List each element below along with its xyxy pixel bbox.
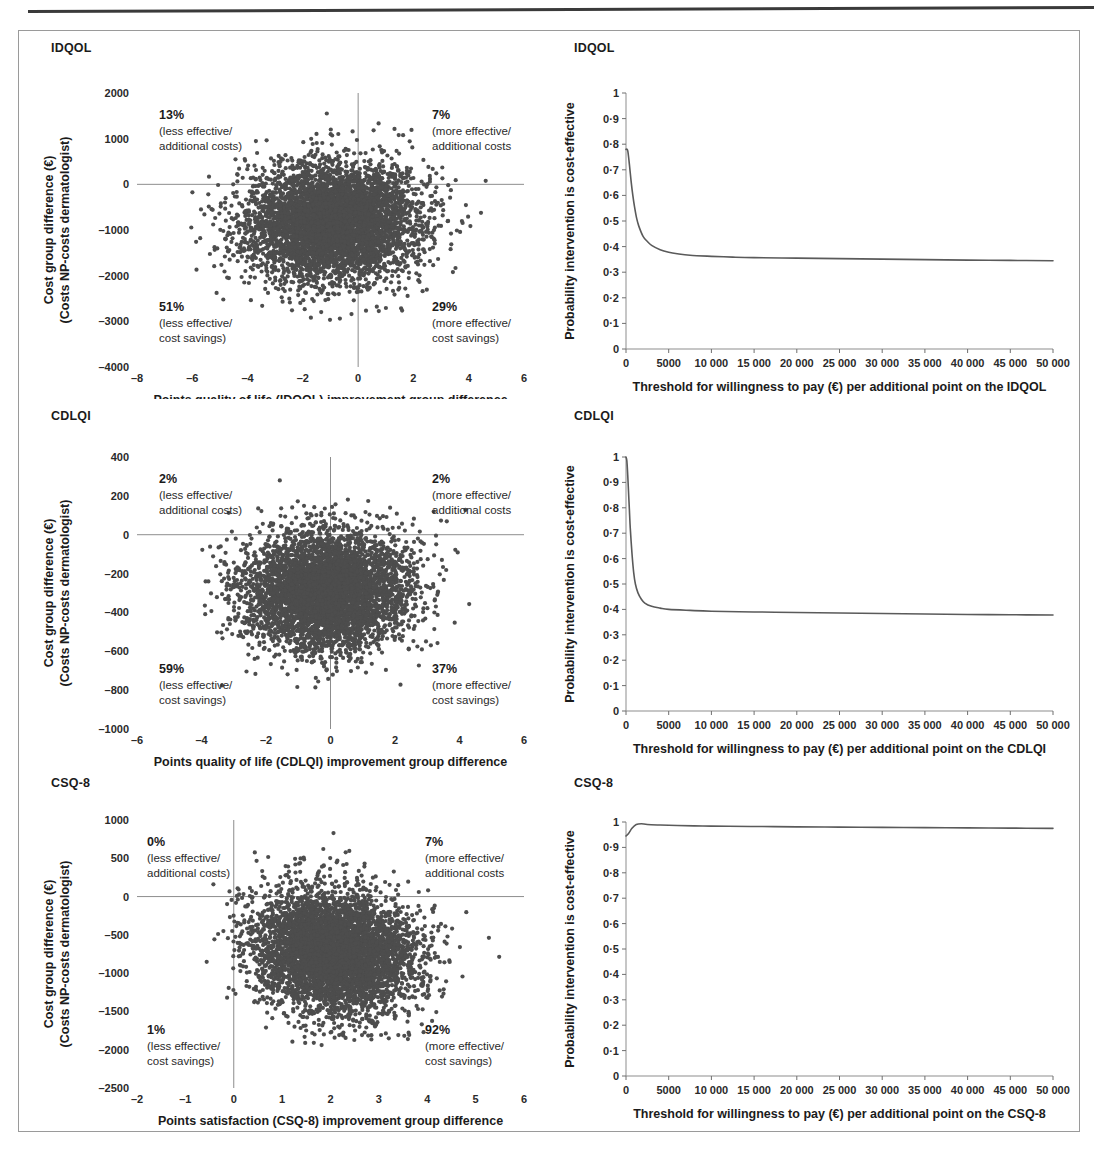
svg-text:0: 0 (123, 891, 129, 903)
svg-text:6: 6 (521, 1093, 527, 1105)
chart-cdlqi-plane: –6–4–202464002000–200–400–600–800–1000Po… (19, 399, 550, 770)
svg-text:6: 6 (521, 734, 527, 746)
svg-text:45 000: 45 000 (993, 357, 1027, 369)
svg-text:Threshold for willingness to p: Threshold for willingness to pay (€) per… (633, 1107, 1046, 1121)
svg-text:–4: –4 (241, 372, 254, 384)
svg-text:0·6: 0·6 (603, 189, 619, 201)
panel-title-csq8-plane: CSQ-8 (51, 776, 90, 790)
svg-text:additional costs: additional costs (425, 867, 505, 879)
svg-text:5000: 5000 (656, 719, 680, 731)
svg-text:10 000: 10 000 (695, 1084, 729, 1096)
svg-text:29%: 29% (432, 300, 457, 314)
svg-text:0·6: 0·6 (603, 918, 619, 930)
svg-text:15 000: 15 000 (737, 357, 771, 369)
svg-text:2: 2 (392, 734, 398, 746)
svg-text:0: 0 (355, 372, 361, 384)
svg-text:0·7: 0·7 (603, 527, 619, 539)
svg-text:–8: –8 (131, 372, 143, 384)
svg-text:40 000: 40 000 (951, 719, 985, 731)
svg-text:Points satisfaction (CSQ-8) im: Points satisfaction (CSQ-8) improvement … (158, 1114, 503, 1128)
svg-text:40 000: 40 000 (951, 1084, 985, 1096)
chart-idqol-ceac: 00·10·20·30·40·50·60·70·80·910500010 000… (550, 31, 1079, 399)
svg-text:2000: 2000 (105, 87, 129, 99)
svg-text:4: 4 (424, 1093, 431, 1105)
svg-text:2%: 2% (159, 472, 177, 486)
svg-text:0: 0 (327, 734, 333, 746)
svg-text:0·7: 0·7 (603, 892, 619, 904)
svg-text:0%: 0% (147, 835, 165, 849)
svg-text:–4: –4 (195, 734, 208, 746)
chart-csq8-plane: –2–1012345610005000–500–1000–1500–2000–2… (19, 770, 550, 1131)
svg-text:35 000: 35 000 (908, 357, 942, 369)
svg-text:30 000: 30 000 (865, 1084, 899, 1096)
svg-text:Cost group difference (€): Cost group difference (€) (42, 519, 56, 668)
svg-text:59%: 59% (159, 662, 184, 676)
svg-text:cost savings): cost savings) (159, 332, 226, 344)
svg-text:1000: 1000 (105, 133, 129, 145)
svg-text:(more effective/: (more effective/ (432, 679, 512, 691)
panel-idqol-ceac: IDQOL 00·10·20·30·40·50·60·70·80·9105000… (550, 31, 1079, 399)
svg-text:15 000: 15 000 (737, 719, 771, 731)
svg-text:25 000: 25 000 (823, 1084, 857, 1096)
svg-text:Threshold for willingness to p: Threshold for willingness to pay (€) per… (633, 742, 1046, 756)
svg-text:cost savings): cost savings) (432, 694, 499, 706)
svg-text:10 000: 10 000 (695, 357, 729, 369)
svg-text:6: 6 (521, 372, 527, 384)
svg-text:45 000: 45 000 (993, 719, 1027, 731)
svg-text:2: 2 (410, 372, 416, 384)
chart-csq8-ceac: 00·10·20·30·40·50·60·70·80·910500010 000… (550, 770, 1079, 1131)
svg-text:(Costs NP-costs dermatologist): (Costs NP-costs dermatologist) (58, 500, 72, 687)
svg-text:–1000: –1000 (98, 967, 129, 979)
svg-text:(Costs NP-costs dermatologist): (Costs NP-costs dermatologist) (58, 137, 72, 324)
svg-text:92%: 92% (425, 1023, 450, 1037)
svg-text:0: 0 (613, 705, 619, 717)
svg-text:–2000: –2000 (98, 270, 129, 282)
svg-text:additional costs): additional costs) (147, 867, 230, 879)
chart-cdlqi-ceac: 00·10·20·30·40·50·60·70·80·910500010 000… (550, 399, 1079, 770)
svg-text:500: 500 (111, 852, 129, 864)
svg-text:20 000: 20 000 (780, 719, 814, 731)
svg-text:–6: –6 (131, 734, 143, 746)
svg-text:–3000: –3000 (98, 315, 129, 327)
svg-text:35 000: 35 000 (908, 1084, 942, 1096)
svg-text:0·5: 0·5 (603, 215, 619, 227)
svg-text:0·8: 0·8 (603, 138, 619, 150)
panel-title-cdlqi-ceac: CDLQI (574, 409, 614, 423)
svg-text:(more effective/: (more effective/ (432, 125, 512, 137)
svg-text:0·1: 0·1 (603, 1045, 619, 1057)
svg-text:additional costs): additional costs) (159, 504, 242, 516)
svg-text:200: 200 (111, 490, 129, 502)
svg-text:1: 1 (279, 1093, 285, 1105)
svg-text:0·1: 0·1 (603, 680, 619, 692)
svg-text:400: 400 (111, 451, 129, 463)
svg-text:(less effective/: (less effective/ (147, 1040, 221, 1052)
svg-text:5: 5 (473, 1093, 479, 1105)
svg-text:40 000: 40 000 (951, 357, 985, 369)
svg-text:(more effective/: (more effective/ (425, 852, 505, 864)
svg-text:13%: 13% (159, 108, 184, 122)
svg-text:0: 0 (613, 1070, 619, 1082)
svg-text:3: 3 (376, 1093, 382, 1105)
svg-text:0·3: 0·3 (603, 994, 619, 1006)
svg-text:25 000: 25 000 (823, 719, 857, 731)
svg-text:(more effective/: (more effective/ (425, 1040, 505, 1052)
panel-title-cdlqi-plane: CDLQI (51, 409, 91, 423)
svg-text:0·9: 0·9 (603, 113, 619, 125)
svg-text:2: 2 (327, 1093, 333, 1105)
svg-text:0: 0 (231, 1093, 237, 1105)
svg-text:0·3: 0·3 (603, 629, 619, 641)
svg-text:–1000: –1000 (98, 723, 129, 735)
svg-text:0·2: 0·2 (603, 292, 619, 304)
panel-cdlqi-plane: CDLQI –6–4–202464002000–200–400–600–800–… (19, 399, 550, 770)
panel-title-idqol-plane: IDQOL (51, 41, 92, 55)
svg-text:Probability intervention is co: Probability intervention is cost-effecti… (563, 102, 577, 340)
svg-text:0·5: 0·5 (603, 943, 619, 955)
svg-text:–2: –2 (297, 372, 309, 384)
svg-text:Cost group difference (€): Cost group difference (€) (42, 156, 56, 305)
svg-text:1: 1 (613, 87, 619, 99)
panel-csq8-ceac: CSQ-8 00·10·20·30·40·50·60·70·80·9105000… (550, 770, 1079, 1131)
svg-text:Probability intervention is co: Probability intervention is cost-effecti… (563, 830, 577, 1068)
svg-text:7%: 7% (425, 835, 443, 849)
svg-text:0: 0 (623, 719, 629, 731)
svg-text:20 000: 20 000 (780, 357, 814, 369)
